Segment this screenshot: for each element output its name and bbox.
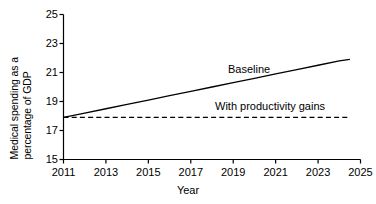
- x-tick-label: 2013: [83, 167, 129, 178]
- series-annotation-baseline: Baseline: [228, 64, 270, 75]
- x-tick-label: 2023: [295, 167, 341, 178]
- tick-marks: [60, 15, 361, 164]
- y-axis-label-line1: Medical spending as a: [9, 57, 20, 159]
- y-tick-label: 21: [38, 67, 58, 78]
- x-tick-label: 2021: [253, 167, 299, 178]
- x-axis-label: Year: [0, 184, 376, 196]
- y-axis-label-line2: percentage of GDP: [22, 71, 33, 159]
- series-annotation-productivity: With productivity gains: [215, 101, 325, 112]
- x-tick-label: 2019: [210, 167, 256, 178]
- x-tick-label: 2025: [338, 167, 376, 178]
- y-tick-label: 19: [38, 96, 58, 107]
- y-tick-label: 17: [38, 125, 58, 136]
- y-tick-label: 23: [38, 38, 58, 49]
- x-tick-label: 2015: [125, 167, 171, 178]
- chart-figure: Medical spending as a percentage of GDP …: [0, 0, 376, 204]
- y-tick-label: 25: [38, 9, 58, 20]
- x-tick-label: 2011: [41, 167, 87, 178]
- x-tick-label: 2017: [168, 167, 214, 178]
- y-axis-label: Medical spending as a percentage of GDP: [6, 14, 42, 159]
- y-tick-label: 15: [38, 154, 58, 165]
